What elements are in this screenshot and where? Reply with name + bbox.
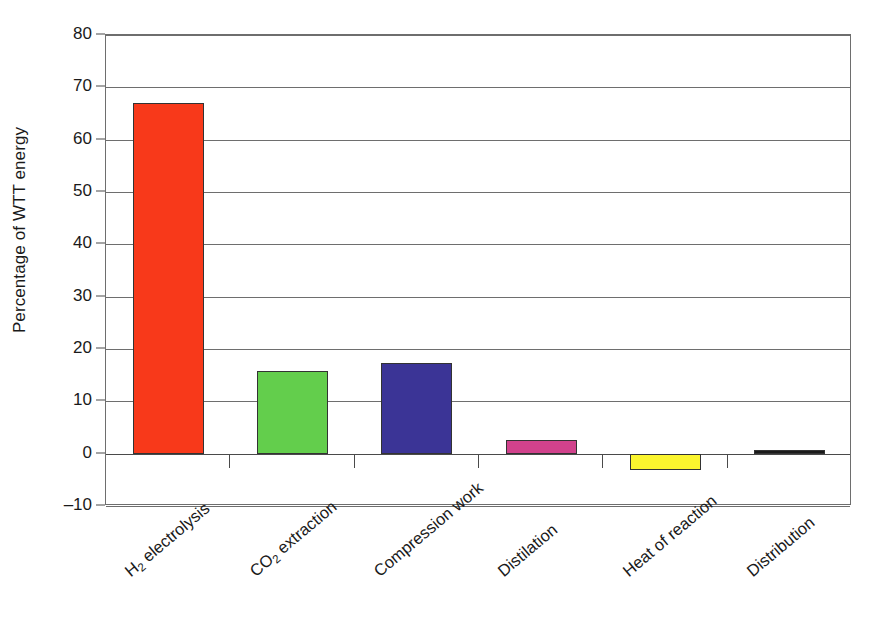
y-axis-tick [96,191,105,192]
y-axis-tick [96,86,105,87]
y-axis-tick [96,34,105,35]
y-axis-tick-label: 0 [83,443,92,463]
bar[interactable] [506,440,577,454]
x-axis-tick [602,455,603,468]
y-axis-tick [96,295,105,296]
bar[interactable] [381,363,452,454]
bar[interactable] [257,371,328,454]
y-axis-title-text: Percentage of WTT energy [10,127,30,333]
y-axis-tick [96,452,105,453]
y-axis-tick [96,348,105,349]
x-axis-category-label: CO2 extraction [246,497,340,581]
subscript: 2 [135,560,148,573]
y-axis-tick [96,505,105,506]
y-axis-tick [96,400,105,401]
bar[interactable] [133,103,204,454]
x-axis-category-label: Distribution [743,513,818,581]
y-axis-tick-label: 60 [73,129,92,149]
gridline [106,506,850,507]
bar[interactable] [754,450,825,454]
x-axis-tick-marks [105,455,851,469]
y-axis-tick-label: 80 [73,24,92,44]
bars-layer [106,35,850,504]
y-axis-tick-label: 70 [73,76,92,96]
plot-area [105,34,851,505]
y-axis-tick [96,243,105,244]
y-axis-tick-label: 10 [73,390,92,410]
bar-chart: Percentage of WTT energy 807060504030201… [0,0,869,628]
y-axis-tick-labels: 80706050403020100–10 [44,0,100,628]
x-axis-category-label: H2 electrolysis [121,499,213,581]
x-axis-tick [229,455,230,468]
y-axis-tick-label: 40 [73,233,92,253]
y-axis-tick-label: 20 [73,338,92,358]
y-axis-tick-label: 30 [73,286,92,306]
x-axis-tick [727,455,728,468]
y-axis-tick [96,138,105,139]
x-axis-tick [354,455,355,468]
subscript: 2 [270,552,283,565]
y-axis-tick-label: –10 [64,495,92,515]
y-axis-tick-label: 50 [73,181,92,201]
y-axis-title: Percentage of WTT energy [0,0,40,460]
x-axis-category-label: Distilation [494,520,561,581]
x-axis-tick [478,455,479,468]
